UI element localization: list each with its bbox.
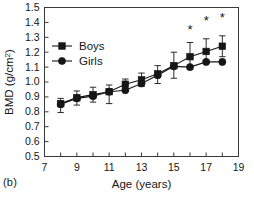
y-tick-label: 1.0: [25, 75, 40, 87]
x-tick-label: 17: [200, 161, 212, 173]
data-point-girls: [89, 93, 96, 100]
data-point-girls: [170, 63, 177, 70]
y-axis-label: BMD (g/cm2): [3, 49, 16, 115]
y-tick-label: 0.7: [25, 120, 40, 132]
x-tick-label: 19: [233, 161, 245, 173]
data-point-girls: [138, 80, 145, 87]
y-tick-label: 1.2: [25, 46, 40, 58]
data-point-girls: [57, 101, 64, 108]
legend-label-boys: Boys: [79, 40, 105, 52]
y-tick-label: 0.5: [25, 150, 40, 162]
y-tick-label: 0.6: [25, 135, 40, 147]
significance-asterisk: *: [204, 13, 209, 28]
data-point-girls: [106, 88, 113, 95]
x-tick-label: 15: [168, 161, 180, 173]
y-tick-label: 1.3: [25, 31, 40, 43]
data-point-girls: [73, 95, 80, 102]
y-tick-label: 1.1: [25, 61, 40, 73]
y-tick-label: 0.8: [25, 105, 40, 117]
x-tick-label: 13: [136, 161, 148, 173]
figure-panel: 0.50.60.70.80.91.01.11.21.31.41.57911131…: [0, 0, 254, 200]
y-tick-label: 0.9: [25, 90, 40, 102]
data-point-boys: [203, 48, 210, 55]
y-tick-label: 1.4: [25, 16, 40, 28]
x-tick-label: 11: [104, 161, 115, 173]
x-tick-label: 7: [42, 161, 48, 173]
data-point-boys: [219, 43, 226, 50]
data-point-boys: [187, 53, 194, 60]
panel-label: (b): [3, 176, 17, 188]
y-tick-label: 1.5: [25, 1, 40, 13]
x-tick-label: 9: [74, 161, 80, 173]
data-point-girls: [219, 58, 226, 65]
significance-asterisk: *: [187, 22, 192, 37]
legend-marker-boys: [59, 43, 66, 50]
data-point-girls: [154, 72, 161, 79]
data-point-girls: [186, 64, 193, 71]
bmd-by-age-line-chart: 0.50.60.70.80.91.01.11.21.31.41.57911131…: [0, 0, 254, 200]
significance-asterisk: *: [220, 10, 225, 25]
data-point-girls: [203, 58, 210, 65]
legend-marker-girls: [58, 57, 65, 64]
data-point-girls: [122, 87, 129, 94]
x-axis-label: Age (years): [112, 178, 172, 190]
legend-label-girls: Girls: [79, 55, 103, 67]
